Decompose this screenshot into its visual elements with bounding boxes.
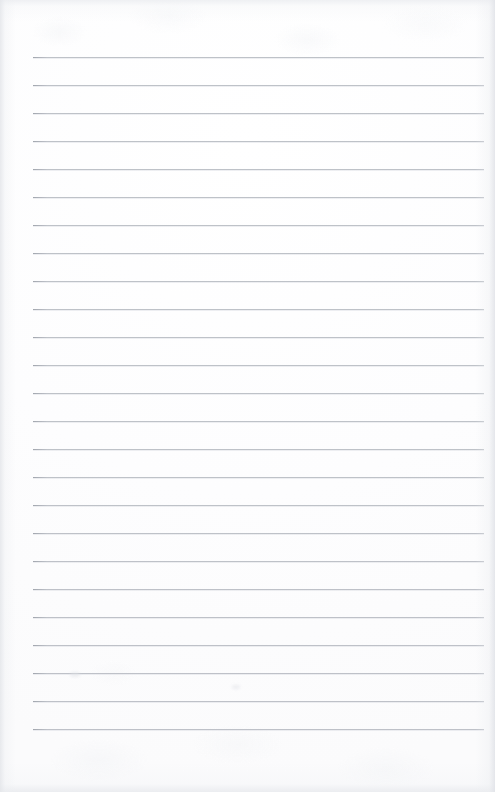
rule-line bbox=[33, 729, 484, 730]
rule-line bbox=[33, 701, 484, 702]
rule-line bbox=[33, 365, 484, 366]
rule-line bbox=[33, 197, 484, 198]
ruled-lines-layer bbox=[0, 0, 495, 792]
rule-line bbox=[33, 449, 484, 450]
rule-line bbox=[33, 57, 484, 58]
rule-line bbox=[33, 561, 484, 562]
rule-line bbox=[33, 645, 484, 646]
rule-line bbox=[33, 309, 484, 310]
rule-line bbox=[33, 533, 484, 534]
rule-line bbox=[33, 393, 484, 394]
rule-line bbox=[33, 337, 484, 338]
rule-line bbox=[33, 253, 484, 254]
rule-line bbox=[33, 421, 484, 422]
rule-line bbox=[33, 85, 484, 86]
rule-line bbox=[33, 477, 484, 478]
rule-line bbox=[33, 225, 484, 226]
rule-line bbox=[33, 113, 484, 114]
rule-line bbox=[33, 169, 484, 170]
scanned-page-viewport bbox=[0, 0, 495, 792]
rule-line bbox=[33, 589, 484, 590]
rule-line bbox=[33, 673, 484, 674]
rule-line bbox=[33, 141, 484, 142]
rule-line bbox=[33, 617, 484, 618]
rule-line bbox=[33, 281, 484, 282]
rule-line bbox=[33, 505, 484, 506]
